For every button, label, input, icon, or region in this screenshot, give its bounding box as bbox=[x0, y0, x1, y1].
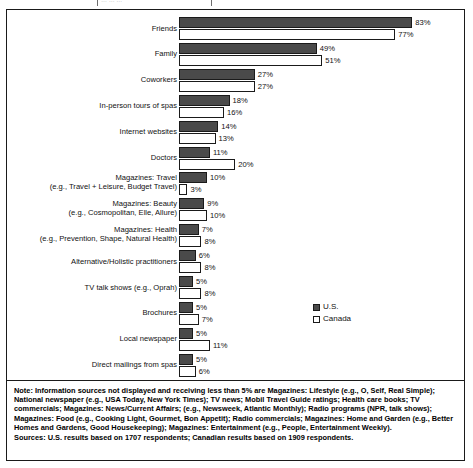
note-block: Note: Information sources not displayed … bbox=[7, 381, 464, 446]
bar-value-label: 11% bbox=[211, 340, 228, 351]
category-label-line1: Magazines: Travel bbox=[7, 173, 177, 182]
category-label: TV talk shows (e.g., Oprah) bbox=[7, 283, 177, 292]
bar-value-label: 20% bbox=[236, 159, 253, 170]
bar-value-label: 14% bbox=[219, 121, 236, 132]
category-label-line1: TV talk shows (e.g., Oprah) bbox=[7, 283, 177, 292]
bar-us bbox=[179, 250, 196, 261]
bar-us bbox=[179, 224, 199, 235]
bar-value-label: 10% bbox=[208, 172, 225, 183]
cut-off-header-fragment: … … … bbox=[0, 0, 473, 8]
category-label-line1: Local newspaper bbox=[7, 334, 177, 343]
chart-row: Magazines: Travel(e.g., Travel + Leisure… bbox=[7, 171, 464, 197]
chart-row: In-person tours of spas18%16% bbox=[7, 94, 464, 120]
figure-frame: Friends83%77%Family49%51%Coworkers27%27%… bbox=[6, 9, 465, 461]
bar-value-label: 27% bbox=[256, 69, 273, 80]
legend-swatch-us bbox=[313, 304, 320, 311]
bar-us bbox=[179, 17, 412, 28]
bar-value-label: 7% bbox=[200, 314, 213, 325]
category-label-line2: (e.g., Travel + Leisure, Budget Travel) bbox=[7, 182, 177, 191]
chart-legend: U.S.Canada bbox=[313, 301, 351, 325]
legend-item[interactable]: U.S. bbox=[313, 301, 351, 313]
bar-us bbox=[179, 276, 193, 287]
bar-us bbox=[179, 69, 255, 80]
bar-value-label: 16% bbox=[225, 107, 242, 118]
category-label: Doctors bbox=[7, 153, 177, 162]
bar-value-label: 5% bbox=[194, 354, 207, 365]
chart-row: Internet websites14%13% bbox=[7, 120, 464, 146]
bar-canada bbox=[179, 366, 196, 377]
bar-us bbox=[179, 328, 193, 339]
chart-row: Doctors11%20% bbox=[7, 146, 464, 172]
category-label-line1: In-person tours of spas bbox=[7, 101, 177, 110]
bar-value-label: 8% bbox=[202, 262, 215, 273]
category-label: Magazines: Travel(e.g., Travel + Leisure… bbox=[7, 173, 177, 191]
category-label-line2: (e.g., Cosmopolitan, Elle, Allure) bbox=[7, 208, 177, 217]
bar-canada bbox=[179, 184, 187, 195]
bar-us bbox=[179, 172, 207, 183]
bar-value-label: 6% bbox=[197, 366, 210, 377]
category-label-line1: Doctors bbox=[7, 153, 177, 162]
legend-swatch-canada bbox=[313, 316, 320, 323]
bar-value-label: 5% bbox=[194, 276, 207, 287]
category-label: Local newspaper bbox=[7, 334, 177, 343]
chart-row: Magazines: Beauty(e.g., Cosmopolitan, El… bbox=[7, 197, 464, 223]
category-label: Direct mailings from spas bbox=[7, 360, 177, 369]
bar-value-label: 83% bbox=[413, 17, 430, 28]
bar-value-label: 77% bbox=[396, 29, 413, 40]
category-label: Coworkers bbox=[7, 75, 177, 84]
bar-value-label: 13% bbox=[217, 133, 234, 144]
category-label-line2: (e.g., Prevention, Shape, Natural Health… bbox=[7, 234, 177, 243]
bar-canada bbox=[179, 314, 199, 325]
bar-us bbox=[179, 198, 204, 209]
bar-value-label: 6% bbox=[197, 250, 210, 261]
bar-value-label: 5% bbox=[194, 302, 207, 313]
bar-value-label: 3% bbox=[188, 184, 201, 195]
bar-us bbox=[179, 43, 317, 54]
note-text: Note: Information sources not displayed … bbox=[14, 386, 457, 432]
category-label: Internet websites bbox=[7, 127, 177, 136]
bar-canada bbox=[179, 288, 201, 299]
category-label: In-person tours of spas bbox=[7, 101, 177, 110]
bar-value-label: 49% bbox=[318, 43, 335, 54]
chart-row: TV talk shows (e.g., Oprah)5%8% bbox=[7, 275, 464, 301]
bar-canada bbox=[179, 340, 210, 351]
bar-value-label: 5% bbox=[194, 328, 207, 339]
bar-value-label: 18% bbox=[231, 95, 248, 106]
category-label: Family bbox=[7, 49, 177, 58]
bar-canada bbox=[179, 210, 207, 221]
bar-value-label: 9% bbox=[205, 198, 218, 209]
category-label: Magazines: Beauty(e.g., Cosmopolitan, El… bbox=[7, 199, 177, 217]
sources-text: Sources: U.S. results based on 1707 resp… bbox=[14, 433, 457, 442]
bar-value-label: 8% bbox=[202, 236, 215, 247]
bar-canada bbox=[179, 236, 201, 247]
category-label-line1: Magazines: Beauty bbox=[7, 199, 177, 208]
category-label: Friends bbox=[7, 24, 177, 33]
bar-chart: Friends83%77%Family49%51%Coworkers27%27%… bbox=[7, 10, 464, 381]
chart-row: Family49%51% bbox=[7, 42, 464, 68]
chart-row: Alternative/Holistic practitioners6%8% bbox=[7, 249, 464, 275]
bar-value-label: 11% bbox=[211, 147, 228, 158]
chart-row: Brochures5%7% bbox=[7, 301, 464, 327]
category-label: Alternative/Holistic practitioners bbox=[7, 257, 177, 266]
legend-label: Canada bbox=[323, 313, 351, 325]
bar-us bbox=[179, 354, 193, 365]
bar-value-label: 27% bbox=[256, 81, 273, 92]
category-label-line1: Magazines: Health bbox=[7, 225, 177, 234]
category-label-line1: Coworkers bbox=[7, 75, 177, 84]
bar-canada bbox=[179, 133, 216, 144]
bar-value-label: 8% bbox=[202, 288, 215, 299]
category-label-line1: Family bbox=[7, 49, 177, 58]
bar-canada bbox=[179, 55, 322, 66]
bar-us bbox=[179, 95, 230, 106]
legend-label: U.S. bbox=[323, 301, 339, 313]
chart-row: Friends83%77% bbox=[7, 16, 464, 42]
bar-value-label: 51% bbox=[323, 55, 340, 66]
bar-value-label: 10% bbox=[208, 210, 225, 221]
chart-row: Direct mailings from spas5%6% bbox=[7, 353, 464, 379]
category-label: Brochures bbox=[7, 308, 177, 317]
bar-canada bbox=[179, 262, 201, 273]
category-label-line1: Internet websites bbox=[7, 127, 177, 136]
legend-item[interactable]: Canada bbox=[313, 313, 351, 325]
bar-canada bbox=[179, 81, 255, 92]
bar-canada bbox=[179, 29, 395, 40]
